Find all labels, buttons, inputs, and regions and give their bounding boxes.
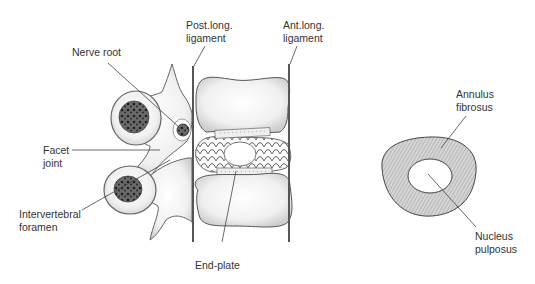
label-nucleus-pulposus: Nucleus pulposus bbox=[475, 230, 517, 256]
vertebral-body-lower bbox=[195, 173, 292, 227]
label-post-long-ligament: Post.long. ligament bbox=[186, 19, 233, 45]
label-annulus-fibrosus: Annulus fibrosus bbox=[456, 88, 494, 114]
disc-nucleus-lateral bbox=[224, 142, 256, 166]
diagram-graphics bbox=[0, 0, 535, 284]
nerve-root-shape bbox=[177, 124, 189, 136]
label-intervertebral-foramen: Intervertebral foramen bbox=[19, 208, 81, 234]
vertebral-body-upper bbox=[196, 77, 290, 132]
cancellous-bone-upper bbox=[119, 101, 149, 133]
label-ant-long-ligament: Ant.long. ligament bbox=[283, 19, 324, 45]
label-facet-joint: Facet joint bbox=[43, 144, 69, 170]
spine-diagram: Nerve root Post.long. ligament Ant.long.… bbox=[0, 0, 535, 284]
label-end-plate: End-plate bbox=[195, 259, 240, 272]
label-nerve-root: Nerve root bbox=[72, 46, 121, 59]
